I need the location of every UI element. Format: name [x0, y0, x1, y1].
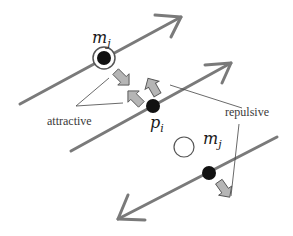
- attractive-leader-lines: [76, 78, 123, 106]
- diagram-canvas: mj pi mj attractive repulsive: [0, 0, 293, 236]
- point-projection-open: [174, 137, 194, 157]
- line-bottom-arrow: [118, 137, 277, 220]
- force-arrow-attractive-left: [122, 85, 147, 110]
- force-arrow-attractive-top: [110, 66, 135, 91]
- point-m-j-top: [93, 47, 115, 69]
- label-m-j-bottom: mj: [203, 129, 222, 151]
- point-p-i: [146, 99, 160, 113]
- force-arrow-repulsive-top: [141, 74, 164, 98]
- label-p-i: pi: [150, 113, 164, 135]
- point-m-j-bottom: [202, 166, 216, 180]
- label-repulsive: repulsive: [225, 105, 269, 119]
- label-m-j-top: mj: [92, 28, 111, 50]
- diagram-svg: mj pi mj attractive repulsive: [0, 0, 293, 236]
- label-attractive: attractive: [47, 114, 92, 128]
